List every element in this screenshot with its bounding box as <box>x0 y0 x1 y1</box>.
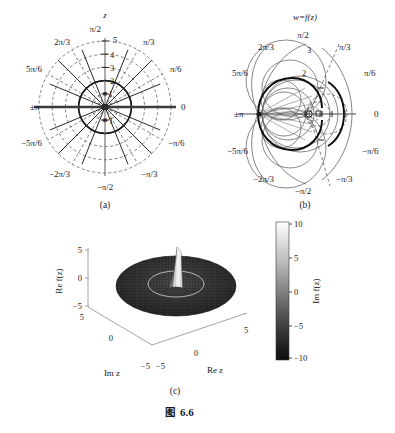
panel-c-ytick-0: 0 <box>109 333 113 343</box>
panel-b-angle-pi3: π/3 <box>339 42 351 52</box>
panel-b-angle-mpi3: −π/3 <box>336 174 353 184</box>
panel-a-angle-pi2: π/2 <box>89 24 101 34</box>
figure-background <box>0 0 395 433</box>
figure-caption-label: 图 <box>165 406 175 418</box>
panel-a-angle-2pi3: 2π/3 <box>54 37 71 47</box>
panel-b-angle-pi: ±π <box>234 109 244 119</box>
panel-b-title: w=f(z) <box>293 12 317 22</box>
panel-a-rtick-1: 1 <box>109 116 113 126</box>
panel-c-zlabel: Re f(z) <box>54 268 64 293</box>
panel-a-angle-mpi2: −π/2 <box>97 182 114 192</box>
panel-b-rtick-3: 3 <box>307 45 311 55</box>
panel-a-angle-5pi6: 5π/6 <box>26 64 43 74</box>
panel-a-origin-marker <box>102 104 108 110</box>
panel-a-angle-mpi6: −π/6 <box>168 138 185 148</box>
panel-c-ztick-5: 5 <box>78 245 82 255</box>
colorbar-tick-m5: −5 <box>294 321 303 331</box>
panel-b-pole-marker <box>256 111 261 116</box>
panel-c-ytick-m5: −5 <box>141 361 150 371</box>
panel-c-xlabel: Re z <box>207 365 223 375</box>
panel-b-angle-mpi6: −π/6 <box>362 146 379 156</box>
panel-a-rtick-5: 5 <box>113 35 117 45</box>
panel-a-rtick-3: 3 <box>110 63 114 73</box>
figure-caption-number: 6.6 <box>180 406 194 418</box>
panel-a-marker-up <box>103 92 106 95</box>
panel-b-rtick-2: 2 <box>302 68 306 78</box>
panel-c-xtick-m5: −5 <box>156 361 165 371</box>
panel-a-angle-pi3: π/3 <box>143 37 155 47</box>
panel-a-angle-pi: ±π <box>30 102 40 112</box>
panel-b-caption: (b) <box>299 200 310 211</box>
panel-c-ztick-m5: −5 <box>73 301 82 311</box>
panel-a-angle-m5pi6: −5π/6 <box>21 138 43 148</box>
panel-a-angle-m2pi3: −2π/3 <box>49 169 71 179</box>
panel-b-angle-pi2: π/2 <box>297 30 309 40</box>
colorbar-tick-10: 10 <box>294 219 303 229</box>
panel-a-angle-mpi3: −π/3 <box>141 169 158 179</box>
colorbar-label: Im f(z) <box>311 278 321 303</box>
panel-b-angle-2pi3: 2π/3 <box>258 42 275 52</box>
colorbar-gradient <box>276 222 289 360</box>
panel-b-angle-5pi6: 5π/6 <box>232 68 249 78</box>
colorbar-tick-0: 0 <box>294 287 298 297</box>
colorbar-tick-m10: −10 <box>294 353 307 363</box>
panel-a-marker-down <box>103 119 106 122</box>
panel-c-caption: (c) <box>170 386 181 397</box>
panel-c-ztick-0: 0 <box>78 273 82 283</box>
colorbar-tick-5: 5 <box>294 253 298 263</box>
panel-a-caption: (a) <box>100 200 111 211</box>
panel-b-angle-m2pi3: −2π/3 <box>253 174 275 184</box>
figure-6-6: z 1 1 2 3 4 5 1 0 π/6 π/3 π/2 2π/3 5π/6 … <box>0 0 395 433</box>
figure-caption: 图 6.6 <box>165 406 194 418</box>
panel-b-angle-mpi2: −π/2 <box>295 186 312 196</box>
panel-a-rtick-one: 1 <box>109 89 113 99</box>
figure-canvas: z 1 1 2 3 4 5 1 0 π/6 π/3 π/2 2π/3 5π/6 … <box>0 0 395 433</box>
panel-a-rtick-2: 2 <box>110 76 114 86</box>
panel-a-angle-0: 0 <box>181 102 186 112</box>
panel-c-xtick-0: 0 <box>194 348 198 358</box>
panel-c-xtick-5: 5 <box>244 325 248 335</box>
panel-c-ylabel: Im z <box>104 368 120 378</box>
panel-a-title: z <box>102 10 107 20</box>
panel-a-angle-pi6: π/6 <box>170 64 182 74</box>
panel-b-angle-pi6: π/6 <box>364 68 376 78</box>
panel-b-angle-m5pi6: −5π/6 <box>227 146 249 156</box>
panel-c-ytick-5: 5 <box>80 312 84 322</box>
panel-b-angle-0: 0 <box>374 109 379 119</box>
